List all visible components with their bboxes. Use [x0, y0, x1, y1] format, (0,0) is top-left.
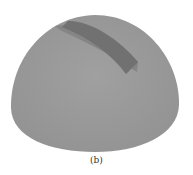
figure: (b)	[0, 0, 193, 175]
figure-caption: (b)	[0, 155, 193, 165]
dome-render	[0, 0, 193, 175]
